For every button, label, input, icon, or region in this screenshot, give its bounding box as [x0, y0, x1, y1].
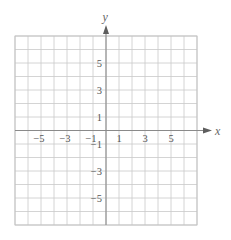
x-tick-label: −3: [59, 133, 70, 144]
y-axis-label: y: [102, 10, 109, 24]
y-tick-label: −3: [91, 166, 102, 177]
x-tick-label: 1: [116, 133, 121, 144]
y-axis-arrow-icon: [103, 25, 109, 34]
coordinate-grid-chart: x y −5−3−1135 531−1−3−5: [0, 0, 231, 240]
y-tick-label: 1: [97, 112, 102, 123]
y-tick-label: −1: [91, 139, 102, 150]
y-tick-label: 5: [97, 58, 102, 69]
y-tick-label: 3: [97, 85, 102, 96]
axes: x y: [15, 10, 221, 225]
x-axis-arrow-icon: [203, 128, 212, 134]
y-tick-label: −5: [91, 193, 102, 204]
x-axis-label: x: [214, 124, 221, 138]
x-tick-label: 3: [142, 133, 147, 144]
x-tick-label: 5: [168, 133, 173, 144]
x-tick-labels: −5−3−1135: [33, 133, 173, 144]
x-tick-label: −5: [33, 133, 44, 144]
